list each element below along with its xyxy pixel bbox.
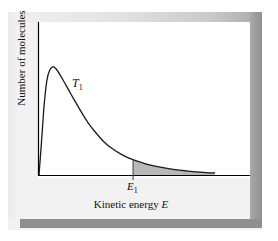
curve-temperature-symbol: T — [72, 76, 79, 90]
distribution-curve — [39, 67, 215, 175]
x-axis-label-text: Kinetic energy — [94, 198, 162, 210]
activation-energy-symbol: E — [127, 180, 134, 192]
x-axis-label-symbol: E — [161, 198, 168, 210]
activation-energy-label: E1 — [127, 180, 138, 195]
curve-temperature-label: T1 — [72, 76, 83, 92]
curve-temperature-subscript: 1 — [79, 83, 83, 92]
maxwell-boltzmann-figure: Number of molecules Kinetic energy E T1 … — [0, 0, 278, 241]
y-axis-label: Number of molecules — [15, 0, 27, 123]
activation-energy-subscript: 1 — [134, 186, 138, 195]
x-axis-label: Kinetic energy E — [0, 198, 262, 210]
